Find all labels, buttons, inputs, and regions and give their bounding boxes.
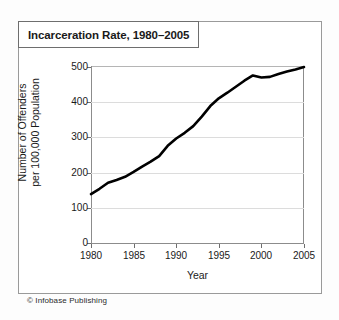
y-axis-title-line-1: Number of Offenders [16,63,29,203]
y-axis-title: Number of Offenders per 100,000 Populati… [16,63,41,203]
chart-figure: Incarceration Rate, 1980–2005 0100200300… [0,0,339,320]
incarceration-rate-line [91,67,304,194]
publisher-credit: © Infobase Publishing [27,296,107,305]
chart-title-box: Incarceration Rate, 1980–2005 [18,21,199,48]
x-axis-title: Year [91,269,304,281]
y-axis-title-line-2: per 100,000 Population [28,63,41,203]
page-title: Incarceration Rate, 1980–2005 [28,29,189,41]
